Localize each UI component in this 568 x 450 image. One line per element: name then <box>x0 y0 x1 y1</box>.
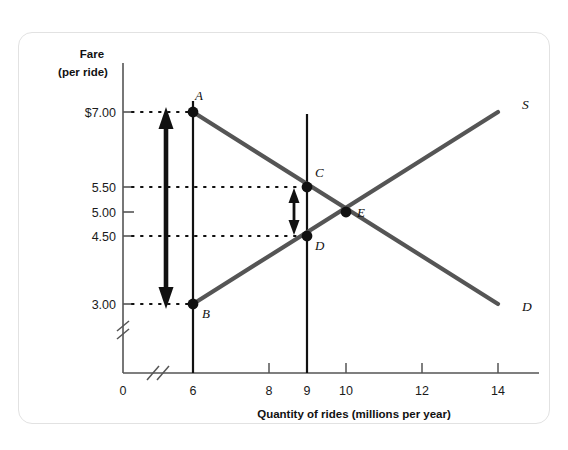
point-a-label: A <box>194 88 203 103</box>
point-e-label: E <box>356 205 365 220</box>
point-c <box>302 182 313 193</box>
y-tick-label: $7.00 <box>85 106 116 120</box>
x-tick-label: 6 <box>190 384 197 398</box>
small-price-gap-arrow <box>289 188 300 235</box>
demand-curve-label: D <box>521 299 532 314</box>
large-price-gap-arrow <box>159 107 174 309</box>
data-points <box>188 107 352 310</box>
x-tick-label: 9 <box>304 384 311 398</box>
x-axis-tick-labels: 0 6 8 9 10 12 14 <box>120 384 505 398</box>
y-tick-label: 5.50 <box>92 181 116 195</box>
figure-frame: $7.00 5.50 5.00 4.50 3.00 0 6 8 9 10 12 … <box>18 32 550 424</box>
x-tick-label: 0 <box>120 384 127 398</box>
x-tick-label: 8 <box>266 384 273 398</box>
point-b <box>188 299 199 310</box>
y-axis-title-line1: Fare <box>80 48 104 60</box>
y-tick-label: 4.50 <box>92 230 116 244</box>
axes <box>117 63 539 380</box>
point-c-label: C <box>315 165 324 180</box>
point-d <box>302 231 313 242</box>
supply-curve-label: S <box>522 97 529 112</box>
economics-supply-demand-chart: $7.00 5.50 5.00 4.50 3.00 0 6 8 9 10 12 … <box>19 33 551 425</box>
x-axis-ticks <box>269 363 498 373</box>
y-axis-ticks <box>123 112 134 304</box>
y-axis-title-line2: (per ride) <box>58 66 108 78</box>
x-tick-label: 14 <box>491 384 505 398</box>
point-b-label: B <box>202 306 210 321</box>
dotted-guide-lines <box>132 112 307 304</box>
y-tick-label: 3.00 <box>92 298 116 312</box>
x-tick-label: 12 <box>415 384 429 398</box>
point-d-label: D <box>314 238 325 253</box>
x-axis-title: Quantity of rides (millions per year) <box>257 408 451 420</box>
point-e <box>341 207 352 218</box>
y-axis-tick-labels: $7.00 5.50 5.00 4.50 3.00 <box>85 106 116 312</box>
x-tick-label: 10 <box>339 384 353 398</box>
y-tick-label: 5.00 <box>92 206 116 220</box>
point-a <box>188 107 199 118</box>
